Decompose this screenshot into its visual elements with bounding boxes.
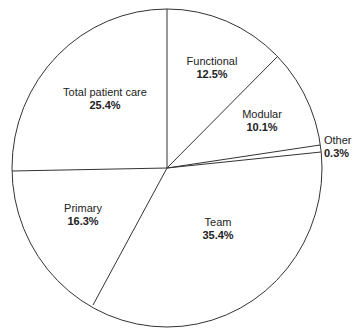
label-name: Other: [324, 134, 352, 147]
slice-label-other: Other 0.3%: [324, 134, 352, 160]
label-pct: 35.4%: [202, 229, 233, 242]
slice-label-total-patient-care: Total patient care 25.4%: [63, 86, 147, 112]
label-name: Functional: [187, 55, 238, 68]
label-name: Primary: [64, 202, 102, 215]
slice-label-modular: Modular 10.1%: [242, 108, 282, 134]
label-pct: 10.1%: [242, 121, 282, 134]
slice-label-team: Team 35.4%: [202, 216, 233, 242]
label-name: Modular: [242, 108, 282, 121]
label-pct: 25.4%: [63, 99, 147, 112]
slice-label-primary: Primary 16.3%: [64, 202, 102, 228]
label-name: Team: [202, 216, 233, 229]
slice-label-functional: Functional 12.5%: [187, 55, 238, 81]
label-pct: 16.3%: [64, 215, 102, 228]
label-pct: 12.5%: [187, 68, 238, 81]
pie-chart: [0, 0, 355, 332]
label-name: Total patient care: [63, 86, 147, 99]
label-pct: 0.3%: [324, 147, 352, 160]
